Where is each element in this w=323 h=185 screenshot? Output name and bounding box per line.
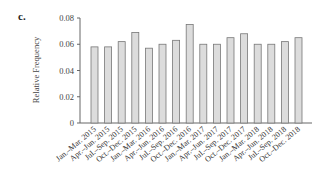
bar bbox=[200, 44, 207, 123]
y-tick-label: 0 bbox=[70, 118, 74, 128]
bar bbox=[241, 34, 248, 123]
y-tick-label: 0.08 bbox=[59, 13, 74, 23]
y-tick-label: 0.04 bbox=[59, 66, 75, 76]
bar bbox=[254, 44, 261, 123]
bar bbox=[213, 44, 220, 123]
bar bbox=[186, 25, 193, 123]
y-tick-label: 0.02 bbox=[59, 92, 74, 102]
bar bbox=[145, 48, 152, 123]
y-tick-label: 0.06 bbox=[59, 39, 74, 49]
bar bbox=[295, 38, 302, 123]
bar-chart: 00.020.040.060.08Jan.–Mar. 2015Apr.–Jun.… bbox=[0, 0, 323, 185]
bar bbox=[227, 38, 234, 123]
bar bbox=[105, 47, 112, 123]
bar bbox=[268, 44, 275, 123]
bar bbox=[159, 44, 166, 123]
bar bbox=[281, 42, 288, 123]
bar bbox=[173, 40, 180, 123]
bar bbox=[132, 32, 139, 123]
bar bbox=[91, 47, 98, 123]
bar bbox=[118, 42, 125, 123]
